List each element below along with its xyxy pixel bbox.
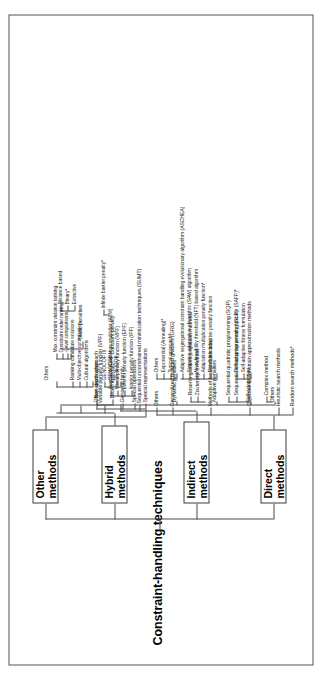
ranking-tick-1 [67, 353, 68, 359]
dynamic-riser [60, 404, 176, 405]
hybrid-item-nft: Near-feasibility threshold (NFT) based a… [192, 268, 198, 372]
approaches-tick-4 [56, 381, 57, 387]
hybrid-item-others: Others [268, 386, 274, 402]
adaptive-tick-4 [189, 373, 190, 379]
diagram-canvas: Constraint-handling techniques Direct me… [0, 0, 323, 679]
other-item-special-representations: Special representations [141, 348, 147, 402]
branch-direct-methods[interactable]: Direct methods [260, 429, 286, 503]
feasdir-tick-2 [190, 396, 191, 402]
complex-stub-h [266, 396, 267, 402]
approaches-root-tick [92, 381, 93, 387]
hybrid-others-riser [250, 404, 274, 405]
direct-out [273, 415, 274, 429]
genocop-spine [104, 386, 120, 387]
approaches-tick-1 [86, 381, 87, 387]
adaptive-tick-3 [196, 373, 197, 379]
direct-spine [228, 414, 273, 415]
other-riser-tick [145, 409, 146, 417]
approx-tick-1 [236, 396, 237, 402]
adaptive-tick-2 [203, 373, 204, 379]
feasdir-tick-1 [197, 396, 198, 402]
other-tick-2 [134, 403, 135, 409]
branch-indirect-methods[interactable]: Indirect methods [183, 421, 209, 503]
other-tick-4 [96, 403, 97, 409]
ranking-tick-3 [56, 353, 57, 359]
other-item-ranking-candidates: Ranking candidate solutions [68, 319, 74, 380]
other-item-constraint-order-ranking: Constraint order ranking [58, 302, 63, 352]
hybrid-item-constant-penalty: Constant penalty [108, 315, 114, 354]
dynamic-tick-3 [156, 373, 157, 379]
approx-tick-2 [228, 396, 229, 402]
branch-other-methods[interactable]: Other methods [32, 429, 58, 503]
selfadapt-tick-2 [236, 373, 237, 379]
dynamic-tick-2 [163, 373, 164, 379]
direct-spine-mid2 [172, 414, 210, 415]
page-title: Constraint-handling techniques [150, 460, 164, 645]
other-item-cultural-algorithms: Cultural algorithms [82, 339, 88, 380]
direct-tick-2 [278, 407, 279, 415]
direct-tick-3 [249, 407, 250, 415]
other-item-genocop-ii: GENOCOP II [106, 351, 112, 380]
dynamic-root-tick [176, 373, 177, 379]
hybrid-item-infinite-barrier: Infinite barrier penalty* [99, 260, 105, 308]
root-stub [159, 519, 160, 531]
other-tick-3 [122, 403, 123, 409]
direct-item-complex-method: Complex method [262, 356, 268, 395]
other-item-multi-objective: Multi-objective optimization [75, 322, 81, 380]
hybrid-item-self-adaptive-fitness: Self-adaptive fitness formulation [239, 303, 245, 372]
hybrid-item-typical-approach: Typical approach* [166, 333, 172, 372]
other-item-genocop: GENOCOP [112, 355, 118, 380]
branch-hybrid-methods[interactable]: Hybrid methods [101, 425, 127, 503]
dynamic-spine [156, 378, 176, 379]
hybrid-tick-static [80, 405, 81, 413]
direct-item-heuristic-search: Heuristic search methods [274, 348, 280, 406]
hybrid-item-dynamic-others: Others [152, 357, 158, 372]
other-riser [45, 416, 145, 417]
hybrid-others-tick [274, 401, 275, 405]
static-tick-2 [67, 305, 68, 311]
infinite-stub-h [103, 309, 104, 315]
genocop-tick-1 [116, 381, 117, 387]
indirect-out2 [196, 411, 197, 421]
adaptive-root-tick [216, 373, 217, 379]
other-item-max-violation-ranking: Max. constraint violation ranking [52, 285, 57, 352]
direct-spine-top [156, 414, 172, 415]
direct-spine-low [273, 414, 292, 415]
dynamic-tick-1 [170, 373, 171, 379]
adaptive-tick-5 [182, 373, 183, 379]
direct-item-sqp: Sequential quadratic programming (SQP) [224, 300, 230, 395]
hybrid-item-aschea: Adaptive segregational constraint handli… [178, 206, 184, 372]
direct-item-random-search: Random search methods* [288, 346, 294, 406]
other-tick-1 [145, 403, 146, 409]
hybrid-item-safp: Self-adaptive penalty function (SAFP)* [232, 289, 238, 372]
adaptive-riser [176, 404, 216, 405]
connector-other [45, 503, 46, 519]
hybrid-item-exponential-annealing: Exponential (Annealing)* [159, 318, 165, 372]
other-item-others: Others [42, 365, 48, 380]
hybrid-item-binary: Binary* [63, 288, 69, 304]
hybrid-out [114, 413, 115, 425]
hybrid-item-adaptation-multiplication: Adaptation multiplication penalty functi… [199, 282, 205, 372]
genocop-tick-2 [110, 381, 111, 387]
adaptive-tick-1 [210, 373, 211, 379]
selfadapt-root-tick [250, 373, 251, 379]
genocop-tick-3 [104, 381, 105, 387]
ranking-root-tick [70, 353, 71, 359]
hybrid-tick-dynamic [60, 405, 61, 413]
genocop-root-tick [120, 381, 121, 387]
connector-hybrid [114, 503, 115, 519]
other-item-genocop-iii: GENOCOP III [100, 349, 106, 380]
hybrid-item-extinctive: Extinctive [70, 283, 76, 304]
other-out [45, 417, 46, 429]
selfadapt-tick-1 [243, 373, 244, 379]
selfadapt-riser [216, 404, 250, 405]
other-spine [96, 408, 145, 409]
direct-spine-mid [210, 414, 228, 415]
hybrid-item-feedback-adaptive: Feedback adaptive penalty function [206, 295, 212, 372]
connector-indirect [196, 503, 197, 519]
hybrid-item-saw: Stepwise adaptation of weights (SAW) alg… [185, 268, 191, 372]
approaches-tick-3 [72, 381, 73, 387]
other-item-level-comparisons: -Level comparisons [63, 311, 68, 352]
ranking-tick-2 [62, 353, 63, 359]
indirect-spine [120, 410, 196, 411]
